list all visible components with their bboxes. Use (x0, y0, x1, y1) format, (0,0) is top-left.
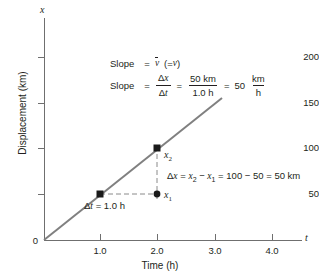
fraction-denominator-dt: Δt (156, 85, 171, 99)
slope-word-2: Slope (110, 80, 134, 91)
delta-t-annotation: Δt = 1.0 h (84, 200, 125, 212)
fraction-km-h: km h (249, 73, 268, 98)
delta-t-rest: = 1.0 h (93, 200, 125, 211)
equals-sign-4: = (224, 80, 230, 91)
slope-equation-row-1: Slope = v (= v) (110, 56, 268, 70)
fraction-numerator-dx: Δx (155, 72, 172, 85)
fraction-50km-1h: 50 km 1.0 h (187, 73, 219, 98)
paren-open: (= (164, 58, 173, 69)
fraction-dx-dt: Δx Δt (155, 72, 172, 99)
v-bar-symbol: v (155, 58, 159, 68)
slope-result-value: 50 (234, 80, 245, 91)
slope-equation-block: Slope = v (= v) Slope = Δx Δt = 50 km 1.… (110, 56, 268, 97)
dt-var: t (165, 88, 168, 98)
displacement-time-graph: x t 0 200 150 100 50 1.0 2.0 3.0 4.0 Dis… (0, 0, 319, 278)
displacement-line (44, 98, 222, 240)
paren-close: ) (177, 58, 180, 69)
point-label-x1: x1 (164, 190, 172, 204)
equals-sign-2: = (144, 80, 150, 91)
unit-denominator-h: h (253, 85, 264, 98)
point-label-x2: x2 (164, 150, 172, 164)
fraction-numerator-50km: 50 km (187, 73, 219, 85)
plot-area (0, 0, 319, 278)
delta-x-eq: = (178, 170, 189, 181)
point-label-x2-sub: 2 (168, 155, 172, 163)
unit-numerator-km: km (249, 73, 268, 85)
delta-x-tail: = 100 − 50 = 50 km (215, 170, 300, 181)
fraction-denominator-1h: 1.0 h (189, 85, 216, 98)
delta-x-annotation: Δx = x2 − x1 = 100 − 50 = 50 km (167, 170, 300, 185)
data-point-x2 (154, 145, 161, 152)
slope-word-1: Slope (110, 58, 134, 69)
data-point-x1 (97, 191, 104, 198)
equals-sign-1: = (144, 58, 150, 69)
delta-x-minus: − (197, 170, 208, 181)
point-label-x1-sub: 1 (168, 195, 172, 203)
slope-equation-row-2: Slope = Δx Δt = 50 km 1.0 h = 50 km h (110, 73, 268, 97)
equals-sign-3: = (176, 80, 182, 91)
corner-point-x1 (154, 191, 161, 198)
dx-var: x (164, 73, 168, 83)
